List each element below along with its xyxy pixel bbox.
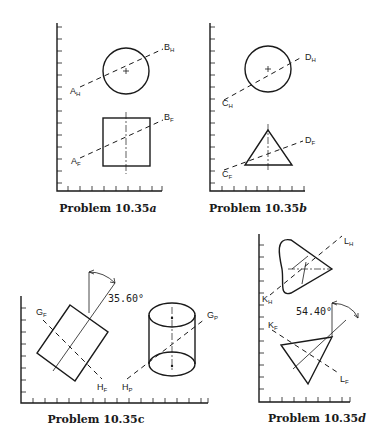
svg-text:GF: GF [36, 307, 47, 318]
panel-c: 35.60° GF HF GP HP [21, 270, 218, 403]
svg-text:DH: DH [305, 52, 316, 63]
line-gh-front [43, 320, 102, 379]
svg-text:BH: BH [164, 42, 174, 53]
line-kl-front [272, 330, 340, 374]
svg-text:LH: LH [344, 236, 353, 247]
line-ab-top [80, 49, 163, 87]
caption-d: Problem 10.35d [268, 412, 366, 425]
axes [21, 296, 208, 403]
svg-text:CH: CH [222, 98, 233, 109]
svg-text:LF: LF [340, 374, 349, 385]
line-cd-top [224, 57, 302, 100]
cylinder-profile-view [149, 303, 195, 376]
svg-text:CF: CF [222, 169, 233, 180]
angle-label: 54.40° [296, 306, 332, 317]
line-gh-profile [127, 319, 205, 379]
svg-text:KF: KF [268, 320, 278, 331]
cone-top-view [279, 240, 332, 294]
angle-arc [332, 303, 358, 318]
svg-text:DF: DF [305, 135, 316, 146]
svg-text:HP: HP [122, 382, 133, 393]
svg-text:AH: AH [70, 86, 80, 97]
svg-text:AF: AF [71, 156, 81, 167]
caption-a: Problem 10.35a [59, 202, 156, 215]
svg-text:HF: HF [97, 382, 108, 393]
square-front-view [103, 118, 150, 166]
caption-c: Problem 10.35c [48, 413, 145, 426]
caption-b: Problem 10.35b [209, 202, 307, 215]
svg-text:BF: BF [164, 112, 174, 123]
panel-d: 54.40° KH LH KF LF [259, 234, 358, 402]
svg-text:GP: GP [207, 310, 218, 321]
problem-figures: AH BH AF BF CH DH CF DF 35 [0, 0, 376, 440]
panel-b: CH DH CF DF [210, 23, 316, 191]
svg-text:KH: KH [262, 294, 272, 305]
triangle-front-view [281, 337, 332, 384]
angle-label: 35.60° [108, 293, 144, 304]
panel-a: AH BH AF BF [57, 23, 174, 191]
